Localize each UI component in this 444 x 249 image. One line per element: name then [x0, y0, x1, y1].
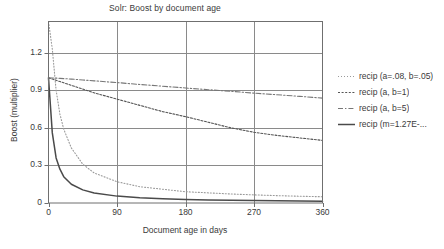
legend-item[interactable]: recip (m=1.27E-...: [338, 116, 444, 132]
gridlines: [49, 22, 323, 204]
x-tick-label: 180: [166, 207, 206, 217]
legend-line-swatch-icon: [338, 103, 355, 113]
plot-frame: [49, 22, 323, 204]
y-tick-label: 0: [2, 197, 42, 207]
legend-item[interactable]: recip (a, b=1): [338, 84, 444, 100]
chart-container: Solr: Boost by document age Boost (multi…: [0, 0, 444, 249]
series-line: [49, 78, 323, 98]
x-tick-label: 360: [303, 207, 343, 217]
legend-item[interactable]: recip (a, b=5): [338, 100, 444, 116]
y-tick-label: 0.9: [2, 84, 42, 94]
y-tick-label: 0.6: [2, 122, 42, 132]
legend-line-swatch-icon: [338, 119, 355, 129]
series-line: [49, 78, 323, 141]
data-curves: [49, 22, 323, 202]
y-tick-label: 1.2: [2, 47, 42, 57]
legend-item[interactable]: recip (a=.08, b=.05): [338, 68, 444, 84]
legend-label: recip (a=.08, b=.05): [359, 71, 433, 81]
series-line: [49, 22, 323, 197]
legend-line-swatch-icon: [338, 71, 355, 81]
x-tick-label: 90: [97, 207, 137, 217]
legend-label: recip (a, b=1): [359, 87, 409, 97]
x-tick-label: 270: [234, 207, 274, 217]
legend-label: recip (a, b=5): [359, 103, 409, 113]
legend-line-swatch-icon: [338, 87, 355, 97]
x-tick-label: 0: [29, 207, 69, 217]
chart-legend: recip (a=.08, b=.05)recip (a, b=1)recip …: [338, 68, 444, 132]
series-line: [49, 78, 323, 201]
y-tick-label: 0.3: [2, 159, 42, 169]
axis-tick-marks: [45, 54, 324, 208]
legend-label: recip (m=1.27E-...: [359, 119, 427, 129]
